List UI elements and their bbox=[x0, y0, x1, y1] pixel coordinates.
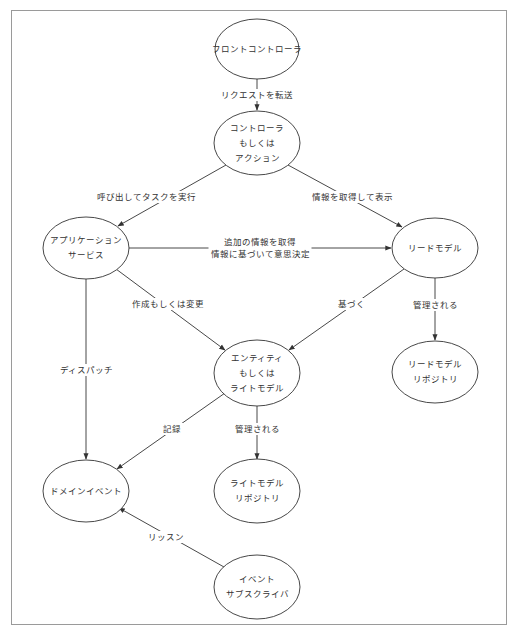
node-label-read-model: リードモデル bbox=[408, 241, 462, 256]
node-label-line: ライトモデル bbox=[230, 381, 284, 396]
node-label-front-controller: フロントコントローラ bbox=[212, 42, 302, 57]
node-label-line: もしくは bbox=[230, 136, 284, 151]
edge-label-controller-to-read_model: 情報を取得して表示 bbox=[310, 191, 395, 203]
node-label-line: リポジトリ bbox=[408, 372, 462, 387]
node-label-entity: エンティティもしくはライトモデル bbox=[230, 351, 284, 396]
edge-label-line: ディスパッチ bbox=[60, 364, 113, 376]
node-label-write-model-repo: ライトモデルリポジトリ bbox=[230, 476, 284, 506]
node-label-line: フロントコントローラ bbox=[212, 42, 302, 57]
edge-label-controller-to-app_service: 呼び出してタスクを実行 bbox=[95, 191, 198, 203]
node-label-line: ドメインイベント bbox=[50, 484, 122, 499]
node-label-line: もしくは bbox=[230, 366, 284, 381]
edge-label-app_service-to-domain_event: ディスパッチ bbox=[58, 364, 115, 376]
edge-label-line: 情報に基づいて意思決定 bbox=[211, 248, 310, 260]
edge-label-read_model-to-read_model_repo: 管理される bbox=[411, 299, 460, 311]
edge-label-line: 作成もしくは変更 bbox=[132, 298, 204, 310]
edge-label-line: 管理される bbox=[413, 299, 458, 311]
edge-label-line: 追加の情報を取得 bbox=[211, 236, 310, 248]
node-label-line: イベント bbox=[226, 572, 289, 587]
edge-label-line: 情報を取得して表示 bbox=[312, 191, 393, 203]
node-label-domain-event: ドメインイベント bbox=[50, 484, 122, 499]
node-label-line: サービス bbox=[50, 248, 122, 263]
edge-label-event_subscriber-to-domain_event: リッスン bbox=[146, 531, 186, 543]
edge-label-entity-to-write_model_repo: 管理される bbox=[233, 423, 282, 435]
node-label-line: サブスクライバ bbox=[226, 587, 289, 602]
edge-label-line: リッスン bbox=[148, 531, 184, 543]
edge-label-entity-to-domain_event: 記録 bbox=[161, 423, 183, 435]
node-label-line: ライトモデル bbox=[230, 476, 284, 491]
node-label-line: アクション bbox=[230, 151, 284, 166]
edge-label-app_service-to-read_model: 追加の情報を取得情報に基づいて意思決定 bbox=[209, 236, 312, 260]
edge-label-read_model-to-entity: 基づく bbox=[336, 298, 367, 310]
node-label-line: リードモデル bbox=[408, 357, 462, 372]
node-label-line: アプリケーション bbox=[50, 233, 122, 248]
node-label-line: コントローラ bbox=[230, 121, 284, 136]
edge-label-line: 基づく bbox=[338, 298, 365, 310]
edge-label-line: リクエストを転送 bbox=[221, 89, 293, 101]
node-label-event-subscriber: イベントサブスクライバ bbox=[226, 572, 289, 602]
node-label-app-service: アプリケーションサービス bbox=[50, 233, 122, 263]
edge-label-line: 呼び出してタスクを実行 bbox=[97, 191, 196, 203]
edge-label-line: 記録 bbox=[163, 423, 181, 435]
node-label-line: リポジトリ bbox=[230, 491, 284, 506]
node-label-line: エンティティ bbox=[230, 351, 284, 366]
diagram-canvas: リクエストを転送呼び出してタスクを実行情報を取得して表示追加の情報を取得情報に基… bbox=[0, 0, 517, 635]
edge-label-front_controller-to-controller: リクエストを転送 bbox=[219, 89, 295, 101]
node-label-controller: コントローラもしくはアクション bbox=[230, 121, 284, 166]
edge-label-line: 管理される bbox=[235, 423, 280, 435]
node-label-line: リードモデル bbox=[408, 241, 462, 256]
edge-label-app_service-to-entity: 作成もしくは変更 bbox=[130, 298, 206, 310]
node-label-read-model-repo: リードモデルリポジトリ bbox=[408, 357, 462, 387]
